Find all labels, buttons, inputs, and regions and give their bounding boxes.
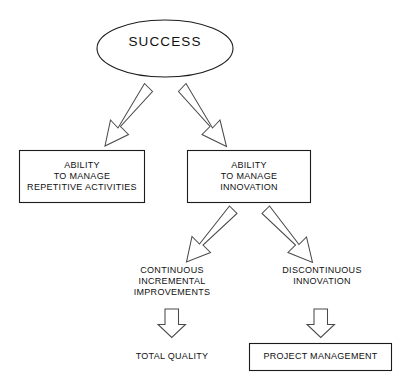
diagram-root: SUCCESS ABILITY TO MANAGE REPETITIVE ACT… [0, 0, 414, 392]
arrow-discontinuous-to-project-management [307, 309, 335, 338]
node-ability-repetitive-box[interactable] [20, 151, 145, 203]
arrow-success-to-repetitive [105, 84, 153, 147]
node-total-quality-label: TOTAL QUALITY [112, 351, 232, 362]
arrow-innovation-to-discontinuous [262, 206, 313, 263]
node-discontinuous-innovation-label: DISCONTINUOUS INNOVATION [262, 265, 382, 287]
node-continuous-incremental-improvements-label: CONTINUOUS INCREMENTAL IMPROVEMENTS [112, 265, 232, 299]
node-ability-innovation-box[interactable] [188, 151, 311, 203]
node-success-ellipse[interactable] [97, 20, 233, 77]
arrow-innovation-to-continuous [187, 206, 238, 262]
node-project-management-box[interactable] [250, 344, 392, 371]
arrow-success-to-innovation [179, 84, 227, 147]
arrow-continuous-to-total-quality [158, 309, 186, 338]
diagram-canvas [0, 0, 414, 392]
